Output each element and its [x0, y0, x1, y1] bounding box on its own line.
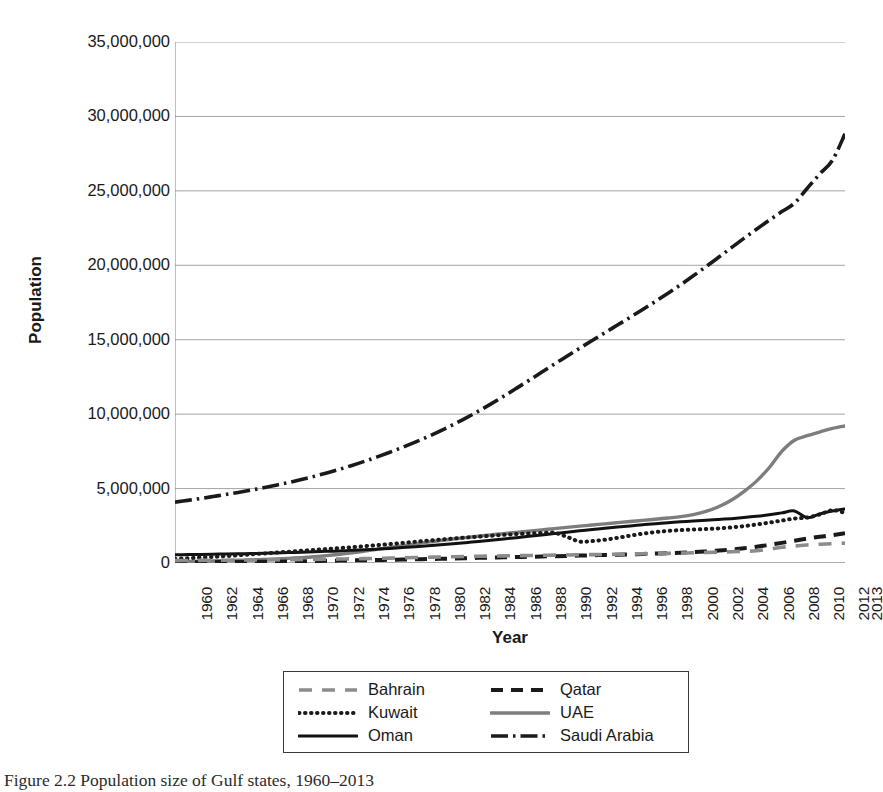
legend-item[interactable]: Saudi Arabia — [490, 726, 682, 745]
y-axis-tick-label: 35,000,000 — [42, 33, 170, 49]
y-axis-tick-label: 15,000,000 — [42, 331, 170, 347]
x-axis-tick-label: 1972 — [350, 587, 368, 621]
x-axis-tick-label: 2010 — [830, 587, 848, 621]
x-axis-tick-label: 2013 — [868, 587, 883, 621]
legend-item[interactable]: Kuwait — [298, 703, 490, 722]
x-axis-tick-label: 1994 — [628, 587, 646, 621]
x-axis-title: Year — [175, 628, 845, 648]
x-axis-tick-label: 1960 — [198, 587, 216, 621]
y-axis-tick-label: 10,000,000 — [42, 405, 170, 421]
y-axis-tick-label: 5,000,000 — [42, 480, 170, 496]
x-axis-tick-label: 1976 — [400, 587, 418, 621]
legend-swatch-icon — [298, 729, 358, 743]
legend-item[interactable]: Qatar — [490, 680, 682, 699]
y-axis-tick-label: 20,000,000 — [42, 256, 170, 272]
x-axis-tick-label: 1980 — [451, 587, 469, 621]
x-axis-tick-label: 1998 — [678, 587, 696, 621]
legend-swatch-icon — [490, 706, 550, 720]
x-axis-tick-label: 1968 — [299, 587, 317, 621]
series-line — [175, 426, 845, 562]
x-axis-tick-labels: 1960196219641966196819701972197419761978… — [175, 570, 845, 630]
x-axis-tick-label: 1982 — [476, 587, 494, 621]
legend-item-label: UAE — [560, 703, 594, 722]
x-axis-tick-label: 1962 — [223, 587, 241, 621]
x-axis-tick-label: 1996 — [653, 587, 671, 621]
y-axis-tick-label: 30,000,000 — [42, 107, 170, 123]
y-axis-tick-label: 0 — [42, 554, 170, 570]
x-axis-tick-label: 2000 — [704, 587, 722, 621]
legend-swatch-icon — [490, 729, 550, 743]
legend-item-label: Kuwait — [368, 703, 418, 722]
x-axis-tick-label: 1988 — [552, 587, 570, 621]
legend-item-label: Oman — [368, 726, 413, 745]
legend-item[interactable]: Oman — [298, 726, 490, 745]
legend-item-label: Bahrain — [368, 680, 425, 699]
x-axis-tick-label: 1986 — [527, 587, 545, 621]
legend-grid: BahrainQatarKuwaitUAEOmanSaudi Arabia — [284, 678, 688, 747]
y-axis-tick-labels: 35,000,00030,000,00025,000,00020,000,000… — [10, 0, 170, 660]
legend-swatch-icon — [298, 706, 358, 720]
x-axis-tick-label: 2002 — [729, 587, 747, 621]
x-axis-tick-label: 2006 — [779, 587, 797, 621]
figure-container: Population 35,000,00030,000,00025,000,00… — [0, 0, 883, 792]
x-axis-tick-label: 1974 — [375, 587, 393, 621]
x-axis-tick-label: 1970 — [324, 587, 342, 621]
legend-item[interactable]: Bahrain — [298, 680, 490, 699]
legend-item-label: Saudi Arabia — [560, 726, 654, 745]
legend-swatch-icon — [298, 683, 358, 697]
legend-swatch-icon — [490, 683, 550, 697]
x-axis-tick-label: 1990 — [577, 587, 595, 621]
x-axis-tick-label: 2004 — [754, 587, 772, 621]
plot-region — [175, 42, 845, 563]
x-axis-tick-label: 2008 — [805, 587, 823, 621]
x-axis-tick-label: 1964 — [248, 587, 266, 621]
x-axis-tick-label: 1966 — [274, 587, 292, 621]
y-axis-tick-label: 25,000,000 — [42, 182, 170, 198]
x-axis-tick-label: 1978 — [425, 587, 443, 621]
figure-caption: Figure 2.2 Population size of Gulf state… — [4, 770, 879, 791]
legend-item[interactable]: UAE — [490, 703, 682, 722]
x-axis-tick-label: 1984 — [501, 587, 519, 621]
chart-legend: BahrainQatarKuwaitUAEOmanSaudi Arabia — [283, 671, 689, 753]
x-axis-tick-label: 1992 — [602, 587, 620, 621]
legend-item-label: Qatar — [560, 680, 601, 699]
chart-area: Population 35,000,00030,000,00025,000,00… — [0, 0, 883, 660]
plot-svg — [175, 42, 845, 563]
series-line — [175, 134, 845, 502]
